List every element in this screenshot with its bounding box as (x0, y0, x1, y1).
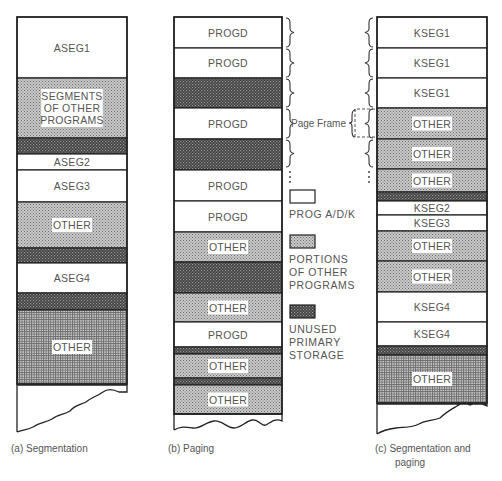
memory-block-other: OTHER (174, 354, 282, 378)
block-label: OTHER (53, 219, 91, 231)
brace-icon (286, 18, 294, 47)
legend-label: UNUSED (289, 323, 337, 335)
torn-edge (174, 414, 282, 430)
column-segmentation: ASEG1SEGMENTSOF OTHERPROGRAMSASEG2ASEG3O… (11, 17, 127, 454)
block-label: PROGD (208, 27, 248, 39)
memory-block-prog: PROGD (174, 170, 282, 201)
memory-block-unused (17, 248, 127, 263)
memory-block-prog: KSEG3 (377, 215, 487, 231)
legend-swatch (290, 305, 315, 318)
block-label: ASEG4 (54, 272, 91, 284)
brace-icon (365, 109, 373, 138)
block-fill (17, 248, 127, 263)
legend-label: OF OTHER (289, 266, 348, 278)
block-label: KSEG4 (414, 301, 451, 313)
memory-block-prog: KSEG4 (377, 322, 487, 346)
memory-block-prog: KSEG2 (377, 201, 487, 215)
memory-block-other: OTHER (17, 202, 127, 248)
memory-block-other: OTHER (174, 232, 282, 262)
memory-block-unused (17, 138, 127, 154)
brace-icon (365, 140, 373, 167)
brace-icon (365, 18, 373, 47)
memory-block-other: OTHER (377, 108, 487, 139)
brace-icon (286, 79, 294, 107)
block-label: OF OTHER (44, 102, 101, 114)
memory-block-prog: PROGD (174, 322, 282, 347)
memory-block-unused (174, 378, 282, 385)
block-label: PROGD (208, 329, 248, 341)
page-frame-braces: Page Frame (286, 18, 375, 183)
continuation-dot (289, 176, 291, 178)
block-label: ASEG2 (54, 156, 91, 168)
continuation-dot (289, 181, 291, 183)
memory-block-prog: PROGD (174, 108, 282, 139)
legend-label: PORTIONS (289, 253, 348, 265)
memory-block-unused (17, 293, 127, 310)
block-label: OTHER (53, 341, 91, 353)
memory-block-prog: ASEG3 (17, 170, 127, 202)
memory-block-other: SEGMENTSOF OTHERPROGRAMS (17, 78, 127, 138)
memory-block-prog: ASEG4 (17, 263, 127, 293)
block-fill (17, 138, 127, 154)
legend-item-other: PORTIONSOF OTHERPROGRAMS (289, 235, 355, 291)
block-label: KSEG2 (414, 202, 451, 214)
memory-block-other-grid: OTHER (377, 355, 487, 403)
memory-block-other: OTHER (174, 385, 282, 414)
block-fill (174, 139, 282, 170)
column-segmentation-and-paging: KSEG1KSEG1KSEG1OTHEROTHEROTHERKSEG2KSEG3… (375, 17, 487, 468)
block-label: ASEG1 (54, 42, 91, 54)
brace-icon (286, 49, 294, 77)
memory-block-other: OTHER (377, 139, 487, 169)
block-label: PROGRAMS (40, 114, 104, 126)
block-fill (17, 293, 127, 310)
brace-icon (349, 110, 355, 137)
column-paging: PROGDPROGDPROGDPROGDPROGDOTHEROTHERPROGD… (168, 17, 282, 454)
block-fill (377, 346, 487, 355)
block-label: OTHER (413, 240, 451, 252)
block-fill (174, 78, 282, 108)
brace-icon (286, 140, 294, 167)
torn-edge (17, 385, 127, 432)
memory-block-prog: PROGD (174, 17, 282, 48)
memory-block-other: OTHER (377, 261, 487, 292)
legend-label: PROG A/D/K (289, 208, 356, 220)
legend: PROG A/D/KPORTIONSOF OTHERPROGRAMSUNUSED… (289, 190, 356, 361)
memory-block-other: OTHER (174, 293, 282, 322)
legend-item-prog: PROG A/D/K (289, 190, 356, 220)
continuation-dot (368, 181, 370, 183)
block-label: KSEG1 (414, 87, 451, 99)
memory-block-prog: KSEG1 (377, 78, 487, 108)
column-caption: (a) Segmentation (11, 443, 88, 454)
legend-item-unused: UNUSEDPRIMARYSTORAGE (289, 305, 344, 361)
memory-block-prog: KSEG4 (377, 292, 487, 322)
block-label: OTHER (413, 175, 451, 187)
block-label: OTHER (209, 394, 247, 406)
block-label: OTHER (413, 373, 451, 385)
block-label: ASEG3 (54, 180, 91, 192)
memory-block-prog: KSEG1 (377, 17, 487, 48)
block-label: PROGD (208, 180, 248, 192)
block-fill (377, 192, 487, 201)
memory-block-prog: ASEG2 (17, 154, 127, 170)
block-label: PROGD (208, 57, 248, 69)
memory-block-unused (377, 192, 487, 201)
brace-icon (365, 79, 373, 107)
memory-block-other: OTHER (377, 169, 487, 192)
memory-block-unused (174, 139, 282, 170)
block-label: KSEG4 (414, 328, 451, 340)
column-caption: paging (395, 457, 425, 468)
block-label: OTHER (209, 302, 247, 314)
block-label: KSEG1 (414, 27, 451, 39)
torn-edge (377, 403, 487, 434)
brace-icon (365, 49, 373, 77)
legend-label: PRIMARY (289, 336, 341, 348)
memory-block-other-grid: OTHER (17, 310, 127, 384)
memory-allocation-diagram: ASEG1SEGMENTSOF OTHERPROGRAMSASEG2ASEG3O… (0, 0, 502, 481)
legend-swatch (290, 190, 315, 203)
continuation-dot (289, 171, 291, 173)
block-label: PROGD (208, 211, 248, 223)
continuation-dot (368, 176, 370, 178)
memory-block-prog: PROGD (174, 48, 282, 78)
memory-block-unused (377, 346, 487, 355)
block-fill (174, 347, 282, 354)
